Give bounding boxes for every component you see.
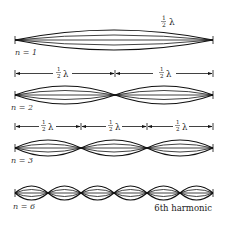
- half-lambda-label: 1 2 λ: [56, 66, 69, 79]
- half-lambda-label: 1 2 λ: [175, 119, 188, 132]
- mode-label-n6: n = 6: [13, 202, 35, 211]
- svg-text:2: 2: [162, 21, 166, 28]
- half-lambda-label: 1 2 λ: [41, 119, 54, 132]
- svg-text:λ: λ: [63, 69, 69, 79]
- svg-text:λ: λ: [48, 122, 54, 132]
- standing-wave-diagram: n = 1 1 2 λ 1 2 λ 1 2 λ: [0, 0, 228, 225]
- n1-wave-envelope: [15, 30, 213, 50]
- svg-text:1: 1: [42, 119, 46, 125]
- mode-label-n2: n = 2: [11, 103, 33, 112]
- svg-text:λ: λ: [169, 17, 175, 27]
- dimension-row-2: 1 2 λ 1 2 λ 1 2 λ: [15, 119, 213, 132]
- mode-n2: n = 2: [11, 86, 213, 112]
- svg-text:1: 1: [57, 66, 61, 72]
- svg-text:1: 1: [160, 66, 164, 72]
- n2-wave-envelope: [15, 86, 213, 104]
- svg-text:2: 2: [176, 126, 180, 132]
- svg-text:1: 1: [162, 14, 166, 21]
- mode-n6: n = 6 6th harmonic: [13, 186, 213, 213]
- svg-text:λ: λ: [182, 122, 188, 132]
- half-wavelength-label-top: 1 2 λ: [161, 14, 175, 28]
- n6-wave-envelope: [15, 186, 213, 200]
- svg-text:2: 2: [57, 73, 61, 79]
- mode-n1: n = 1 1 2 λ: [15, 14, 213, 57]
- svg-text:2: 2: [42, 126, 46, 132]
- half-lambda-label: 1 2 λ: [159, 66, 172, 79]
- caption-6th-harmonic: 6th harmonic: [154, 203, 212, 213]
- mode-label-n1: n = 1: [15, 48, 37, 57]
- half-lambda-label: 1 2 λ: [108, 119, 121, 132]
- svg-text:1: 1: [109, 119, 113, 125]
- mode-n3: n = 3: [11, 140, 213, 165]
- svg-text:λ: λ: [115, 122, 121, 132]
- svg-text:1: 1: [176, 119, 180, 125]
- svg-text:2: 2: [109, 126, 113, 132]
- n3-wave-envelope: [15, 140, 213, 156]
- svg-text:λ: λ: [166, 69, 172, 79]
- dimension-row-1: 1 2 λ 1 2 λ: [15, 66, 213, 79]
- svg-text:2: 2: [160, 73, 164, 79]
- mode-label-n3: n = 3: [11, 156, 33, 165]
